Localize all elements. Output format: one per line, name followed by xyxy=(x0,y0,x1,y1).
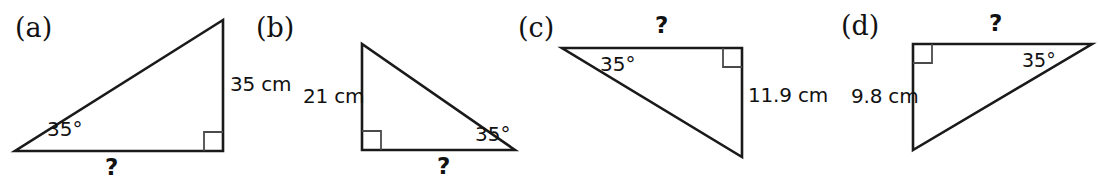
triangle-c xyxy=(562,48,742,157)
side-label-d-vertical: 9.8 cm xyxy=(851,86,918,106)
angle-label-b: 35° xyxy=(475,124,510,144)
unknown-label-a-base: ? xyxy=(105,156,118,177)
triangle-d xyxy=(913,44,1092,150)
triangle-c-right-angle-square xyxy=(723,48,742,67)
part-label-d: (d) xyxy=(841,12,879,39)
triangle-a-right-angle-square xyxy=(204,132,223,151)
part-label-c: (c) xyxy=(518,14,554,41)
triangle-b-right-angle-square xyxy=(362,131,381,150)
unknown-label-c-top: ? xyxy=(655,14,668,37)
unknown-label-b-base: ? xyxy=(437,155,450,177)
angle-label-c: 35° xyxy=(600,54,635,74)
side-label-b-vertical: 21 cm xyxy=(303,86,364,106)
angle-label-a: 35° xyxy=(47,119,82,139)
figure-sheet: (a) 35° 35 cm ? (b) 21 cm 35° ? (c) ? 35… xyxy=(0,0,1098,177)
side-label-a-vertical: 35 cm xyxy=(230,74,291,94)
triangle-d-outline xyxy=(913,44,1092,150)
triangle-c-outline xyxy=(562,48,742,157)
unknown-label-d-top: ? xyxy=(989,12,1002,35)
triangle-d-right-angle-square xyxy=(913,44,932,63)
angle-label-d: 35° xyxy=(1022,51,1056,70)
side-label-c-vertical: 11.9 cm xyxy=(748,85,828,105)
part-label-a: (a) xyxy=(15,14,52,41)
part-label-b: (b) xyxy=(256,14,294,41)
